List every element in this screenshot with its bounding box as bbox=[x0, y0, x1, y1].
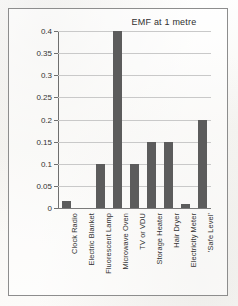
x-tick-label: Electricity Meter bbox=[189, 213, 198, 267]
y-tick-label: 0.2 bbox=[41, 115, 52, 124]
bar bbox=[147, 142, 156, 208]
x-tick-label: Clock Radio bbox=[70, 213, 79, 254]
gridline bbox=[58, 208, 211, 209]
x-tick-label: Fluorescent Lamp bbox=[104, 213, 113, 274]
y-tick-mark bbox=[54, 164, 58, 165]
y-tick-mark bbox=[54, 97, 58, 98]
x-tick-label: 'Safe Level' bbox=[206, 213, 215, 252]
bar bbox=[198, 120, 207, 209]
gridline bbox=[58, 75, 211, 76]
x-tick-label: Electric Blanket bbox=[87, 213, 96, 266]
y-tick-label: 0.3 bbox=[41, 71, 52, 80]
y-tick-mark bbox=[54, 186, 58, 187]
bar bbox=[164, 142, 173, 208]
bar bbox=[62, 201, 71, 208]
y-tick-mark bbox=[54, 31, 58, 32]
bar bbox=[181, 204, 190, 208]
y-tick-mark bbox=[54, 53, 58, 54]
figure-frame: EMF at 1 metre 00.050.10.150.20.250.30.3… bbox=[8, 8, 228, 296]
x-tick-label: Storage Heater bbox=[155, 213, 164, 265]
x-tick-label: Microwave Oven bbox=[121, 213, 130, 269]
gridline bbox=[58, 120, 211, 121]
y-tick-mark bbox=[54, 120, 58, 121]
gridline bbox=[58, 31, 211, 32]
scanned-page: EMF at 1 metre 00.050.10.150.20.250.30.3… bbox=[0, 0, 238, 306]
bar bbox=[130, 164, 139, 208]
y-tick-mark bbox=[54, 75, 58, 76]
y-tick-mark bbox=[54, 142, 58, 143]
bar bbox=[113, 31, 122, 208]
y-tick-label: 0 bbox=[48, 204, 52, 213]
plot-area: 00.050.10.150.20.250.30.350.4 bbox=[58, 31, 211, 208]
x-tick-label: TV or VDU bbox=[138, 213, 147, 250]
y-tick-label: 0.1 bbox=[41, 159, 52, 168]
gridline bbox=[58, 97, 211, 98]
bar-chart: EMF at 1 metre 00.050.10.150.20.250.30.3… bbox=[9, 9, 229, 297]
chart-title: EMF at 1 metre bbox=[109, 17, 219, 27]
y-tick-label: 0.4 bbox=[41, 27, 52, 36]
y-tick-label: 0.15 bbox=[36, 137, 52, 146]
x-tick-label: Hair Dryer bbox=[172, 213, 181, 248]
gridline bbox=[58, 142, 211, 143]
y-tick-mark bbox=[54, 208, 58, 209]
y-tick-label: 0.25 bbox=[36, 93, 52, 102]
y-tick-label: 0.05 bbox=[36, 181, 52, 190]
y-tick-label: 0.35 bbox=[36, 49, 52, 58]
gridline bbox=[58, 53, 211, 54]
bar bbox=[96, 164, 105, 208]
